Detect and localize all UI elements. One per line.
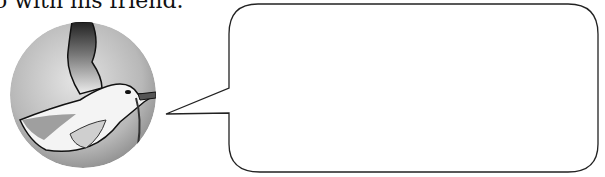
speech-bubble-outline <box>166 4 598 172</box>
speech-bubble <box>0 0 605 177</box>
